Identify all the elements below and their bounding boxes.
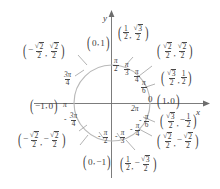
- denominator: 2: [51, 51, 57, 60]
- denominator: 2: [52, 140, 58, 149]
- leader-135: [78, 55, 87, 65]
- denominator: 2: [169, 78, 175, 87]
- numerator-radical: √2: [177, 42, 188, 51]
- radicand: 3: [171, 69, 176, 78]
- numerator: π: [120, 130, 126, 137]
- rparen-glyph: ): [188, 72, 192, 84]
- coord-y: 0: [170, 97, 175, 106]
- rparen-glyph: ): [106, 37, 110, 49]
- leader-300: [126, 140, 135, 150]
- coord-y-fraction: √2 2: [48, 42, 59, 60]
- coord-y: 0: [48, 102, 53, 111]
- denominator: 3: [120, 137, 126, 145]
- coord-y-fraction: √2 2: [182, 132, 193, 150]
- rparen-glyph: ): [193, 115, 197, 127]
- denominator: 2: [165, 51, 171, 60]
- coord-x-fraction: √2 2: [162, 42, 173, 60]
- radicand: 2: [188, 132, 193, 141]
- leader-45: [139, 66, 152, 76]
- denominator: 2: [185, 141, 191, 150]
- denominator: 2: [135, 33, 141, 42]
- angle-two-pi: 2π: [131, 105, 139, 113]
- numerator: 3π: [63, 72, 72, 79]
- radicand: 3: [138, 24, 143, 33]
- coord-x-fraction: √3 2: [166, 69, 177, 87]
- rparen-glyph: ): [145, 27, 149, 39]
- numerator: 1: [181, 70, 187, 78]
- denominator: 4: [71, 120, 77, 128]
- coord-x: −1: [35, 102, 45, 111]
- y-axis-arrowhead: [109, 10, 115, 17]
- point-neg30-deg: ( √3 2 , − 1 2 ): [159, 112, 197, 130]
- denominator: 4: [65, 79, 71, 87]
- numerator-radical: √2: [162, 132, 173, 141]
- angle-neg-three-pi-over-4: - 3π 4: [64, 113, 78, 128]
- coord-x-fraction: √2 2: [29, 131, 40, 149]
- numerator: π: [134, 69, 140, 76]
- radicand: 2: [54, 131, 59, 140]
- point-neg1-0: ( −1 , 0 ): [29, 100, 59, 113]
- numerator-radical: √3: [165, 112, 176, 121]
- minus-glyph: -: [64, 115, 67, 124]
- minus-glyph: -: [98, 132, 101, 141]
- lparen-glyph: (: [120, 158, 124, 170]
- radicand: 2: [54, 42, 59, 51]
- numerator-radical: √3: [140, 155, 151, 164]
- denominator: 2: [31, 140, 37, 149]
- numerator: π: [141, 80, 147, 87]
- point-1-0: ( 1 , 0 ): [156, 95, 181, 108]
- unit-circle-figure: x y 0 ( 1 , 0 ) ( 0 , 1 ) ( −: [0, 0, 220, 189]
- lparen-glyph: (: [30, 100, 34, 112]
- lparen-glyph: (: [18, 134, 22, 146]
- point-neg60-deg: ( 1 2 , − √3 2 ): [119, 155, 157, 173]
- rparen-glyph: ): [195, 135, 199, 147]
- denominator: 4: [135, 130, 141, 138]
- denominator: 2: [113, 65, 119, 73]
- numerator-radical: √3: [166, 69, 177, 78]
- point-neg45-deg: ( √2 2 , − √2 2 ): [156, 132, 200, 150]
- angle-pi-over-3: π 3: [124, 62, 130, 77]
- denominator: 3: [124, 69, 130, 77]
- denominator: 2: [143, 164, 149, 173]
- radicand: 2: [167, 42, 172, 51]
- lparen-glyph: (: [157, 135, 161, 147]
- denominator: 2: [36, 51, 42, 60]
- x-axis-arrowhead: [203, 101, 210, 107]
- lparen-glyph: (: [23, 45, 27, 57]
- origin-angle-label: 0: [148, 95, 153, 104]
- point-60-deg: ( 1 2 , √3 2 ): [117, 24, 150, 42]
- rparen-glyph: ): [61, 45, 65, 57]
- point-30-deg: ( √3 2 , 1 2 ): [160, 69, 193, 87]
- numerator-radical: √2: [48, 42, 59, 51]
- rparen-glyph: ): [62, 134, 66, 146]
- lparen-glyph: (: [118, 27, 122, 39]
- denominator: 2: [168, 121, 174, 130]
- coord-y-fraction: 1 2: [185, 113, 191, 129]
- numerator-radical: √2: [182, 132, 193, 141]
- angle-pi-over-4: π 4: [134, 69, 140, 84]
- leader-315: [139, 129, 152, 136]
- radicand: 3: [145, 155, 150, 164]
- radicand: 2: [39, 42, 44, 51]
- point-45-deg: ( √2 2 , √2 2 ): [156, 42, 194, 60]
- numerator: 3π: [69, 113, 78, 120]
- denominator: 6: [141, 87, 147, 95]
- point-225-deg: ( − √2 2 , − √2 2 ): [17, 131, 66, 149]
- y-axis-label: y: [103, 14, 107, 23]
- radicand: 2: [167, 132, 172, 141]
- radicand: 3: [170, 112, 175, 121]
- numerator-radical: √2: [29, 131, 40, 140]
- angle-pi-over-2: π 2: [113, 58, 119, 73]
- numerator-radical: √3: [132, 24, 143, 33]
- leader-ang-135: [75, 70, 84, 76]
- radicand: 2: [182, 42, 187, 51]
- coord-y: −1: [96, 158, 106, 167]
- rparen-glyph: ): [107, 156, 111, 168]
- coord-x-fraction: √2 2: [34, 42, 45, 60]
- rparen-glyph: ): [189, 45, 193, 57]
- numerator-radical: √2: [34, 42, 45, 51]
- point-0-neg1: ( 0 , −1 ): [82, 156, 112, 169]
- rparen-glyph: ): [54, 100, 58, 112]
- coord-y-fraction: 1 2: [181, 70, 187, 86]
- denominator: 2: [165, 141, 171, 150]
